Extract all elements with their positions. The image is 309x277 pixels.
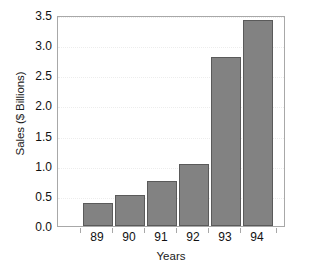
y-axis-tick-label: 2.5: [35, 70, 52, 82]
y-axis-tick-label: 1.0: [35, 161, 52, 173]
y-axis-tick-label: 3.0: [35, 40, 52, 52]
x-axis-title: Years: [57, 250, 285, 262]
x-axis-tick-label: 90: [115, 231, 143, 244]
plot-area: [57, 16, 285, 227]
bar-series: [58, 17, 284, 226]
y-axis-tick-label: 2.0: [35, 100, 52, 112]
y-axis-tick-label: 3.5: [35, 10, 52, 22]
y-axis-tick-labels: 0.00.51.01.52.02.53.03.5: [0, 0, 57, 277]
x-axis-tick-label: 93: [211, 231, 239, 244]
bar: [147, 181, 177, 226]
x-axis-tick-label: 89: [83, 231, 111, 244]
bar: [115, 195, 145, 226]
x-axis-tick-label: 92: [179, 231, 207, 244]
bar-chart: Sales ($ Billions) 0.00.51.01.52.02.53.0…: [0, 0, 309, 277]
bar: [243, 20, 273, 226]
x-axis-tick-labels: 899091929394: [57, 231, 285, 247]
y-axis-tick-label: 0.0: [35, 221, 52, 233]
y-axis-tick-label: 1.5: [35, 131, 52, 143]
x-axis-tick-label: 94: [243, 231, 271, 244]
y-axis-tick-label: 0.5: [35, 191, 52, 203]
bar: [83, 203, 113, 226]
bar: [211, 57, 241, 226]
bar: [179, 164, 209, 226]
x-axis-tick-label: 91: [147, 231, 175, 244]
